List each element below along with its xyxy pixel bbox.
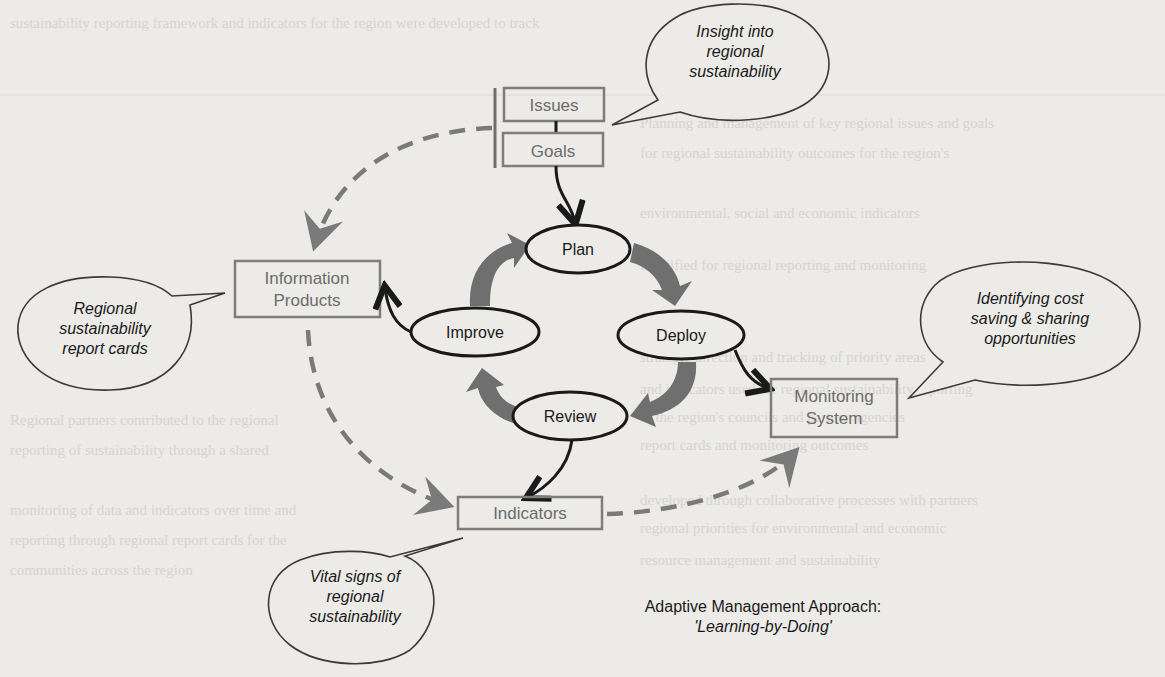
bubble-vital-signs-line2: regional bbox=[327, 588, 384, 605]
goals-box[interactable]: Goals bbox=[503, 133, 603, 166]
goals-to-plan-arrow bbox=[556, 166, 575, 222]
indicators-box[interactable]: Indicators bbox=[458, 497, 602, 529]
bubble-vital-signs-line1: Vital signs of bbox=[310, 568, 402, 585]
svg-text:Regional partners contributed: Regional partners contributed to the reg… bbox=[10, 412, 279, 428]
svg-text:developed through collaborativ: developed through collaborative processe… bbox=[640, 492, 978, 508]
information-to-indicators-dashed-arrow bbox=[308, 330, 448, 505]
information-products-label-line1: Information bbox=[264, 269, 349, 288]
issues-label: Issues bbox=[529, 96, 578, 115]
bubble-cost-saving-line3: opportunities bbox=[984, 330, 1076, 347]
plan-label: Plan bbox=[562, 241, 594, 258]
bubble-cost-saving: Identifying cost saving & sharing opport… bbox=[909, 262, 1140, 398]
diagram-caption: Adaptive Management Approach: 'Learning-… bbox=[645, 598, 882, 635]
svg-text:Planning and management of key: Planning and management of key regional … bbox=[640, 115, 994, 131]
improve-to-information-arrow bbox=[385, 288, 411, 332]
cycle-node-review[interactable]: Review bbox=[513, 392, 627, 440]
bubble-report-cards: Regional sustainability report cards bbox=[18, 277, 225, 390]
bubble-cost-saving-line1: Identifying cost bbox=[977, 290, 1084, 307]
svg-text:report cards and monitoring ou: report cards and monitoring outcomes bbox=[640, 437, 868, 453]
goals-label: Goals bbox=[531, 142, 575, 161]
bubble-insight-line2: regional bbox=[707, 43, 764, 60]
review-label: Review bbox=[544, 408, 597, 425]
svg-text:in the region's councils and p: in the region's councils and partner age… bbox=[640, 409, 905, 425]
bubble-vital-signs-line3: sustainability bbox=[309, 608, 402, 625]
cycle-node-improve[interactable]: Improve bbox=[411, 308, 539, 356]
svg-text:identified for regional report: identified for regional reporting and mo… bbox=[640, 257, 927, 273]
indicators-label: Indicators bbox=[493, 504, 567, 523]
monitoring-system-label-line1: Monitoring bbox=[794, 387, 873, 406]
bubble-insight-line1: Insight into bbox=[696, 23, 773, 40]
svg-text:resource management and sustai: resource management and sustainability bbox=[640, 552, 881, 568]
adaptive-management-diagram: sustainability reporting framework and i… bbox=[0, 0, 1165, 677]
information-products-box[interactable]: Information Products bbox=[235, 261, 380, 317]
bubble-report-cards-line1: Regional bbox=[73, 300, 137, 317]
monitoring-system-label-line2: System bbox=[806, 409, 863, 428]
bubble-cost-saving-line2: saving & sharing bbox=[971, 310, 1089, 327]
svg-text:regional priorities for enviro: regional priorities for environmental an… bbox=[640, 520, 946, 536]
caption-subtitle: 'Learning-by-Doing' bbox=[694, 618, 833, 635]
svg-text:communities across the region: communities across the region bbox=[10, 562, 193, 578]
review-to-indicators-arrow bbox=[528, 440, 572, 497]
bubble-insight-line3: sustainability bbox=[689, 63, 782, 80]
cycle-node-deploy[interactable]: Deploy bbox=[618, 311, 744, 359]
issues-box[interactable]: Issues bbox=[504, 88, 604, 121]
information-products-label-line2: Products bbox=[273, 291, 340, 310]
bubble-insight: Insight into regional sustainability bbox=[612, 4, 829, 125]
bubble-report-cards-line2: sustainability bbox=[59, 320, 152, 337]
bubble-report-cards-line3: report cards bbox=[62, 340, 147, 357]
bubble-vital-signs: Vital signs of regional sustainability bbox=[268, 538, 463, 664]
svg-text:environmental, social and econ: environmental, social and economic indic… bbox=[640, 205, 920, 221]
svg-text:monitoring of data and indicat: monitoring of data and indicators over t… bbox=[10, 502, 297, 518]
deploy-label: Deploy bbox=[656, 327, 706, 344]
cycle-node-plan[interactable]: Plan bbox=[526, 225, 630, 273]
svg-text:reporting through regional rep: reporting through regional report cards … bbox=[10, 532, 287, 548]
svg-text:reporting of sustainability th: reporting of sustainability through a sh… bbox=[10, 442, 269, 458]
svg-text:sustainability reporting frame: sustainability reporting framework and i… bbox=[10, 15, 540, 31]
svg-text:for regional sustainability ou: for regional sustainability outcomes for… bbox=[640, 145, 949, 161]
caption-title: Adaptive Management Approach: bbox=[645, 598, 882, 615]
issues-to-information-dashed-arrow bbox=[315, 128, 492, 245]
improve-label: Improve bbox=[446, 324, 504, 341]
